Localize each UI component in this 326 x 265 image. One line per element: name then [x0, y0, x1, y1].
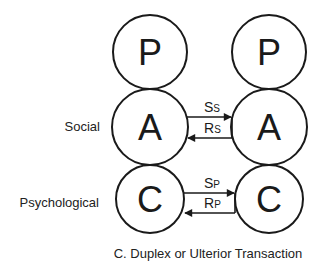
left-adult-label: A — [138, 107, 162, 148]
right-child-label: C — [256, 179, 282, 220]
left-person: P A C — [112, 15, 188, 233]
psychological-level-label: Psychological — [20, 195, 100, 210]
right-person: P A C — [231, 15, 307, 233]
right-parent-label: P — [257, 32, 281, 73]
diagram-caption: C. Duplex or Ulterior Transaction — [114, 246, 303, 261]
social-transaction: SS RS — [187, 99, 232, 138]
psychological-transaction: SP RP — [184, 175, 235, 213]
duplex-transaction-diagram: P A C P A C Social Psychological SS RS S — [0, 0, 326, 265]
left-parent-label: P — [138, 32, 162, 73]
left-child-label: C — [137, 179, 163, 220]
social-response-label: RS — [204, 120, 221, 136]
social-level-label: Social — [65, 119, 101, 134]
psych-response-label: RP — [204, 195, 221, 211]
right-adult-label: A — [257, 107, 281, 148]
psych-stimulus-label: SP — [204, 175, 220, 191]
social-stimulus-label: SS — [204, 99, 220, 115]
